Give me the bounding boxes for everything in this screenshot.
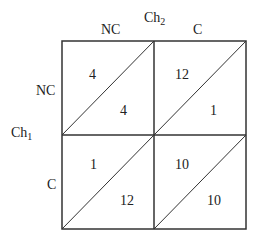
payoff-c-c-upper: 10: [175, 158, 189, 172]
cell-diagonal: [62, 135, 154, 229]
cell-diagonal: [154, 41, 246, 135]
row-label-nc: NC: [36, 84, 55, 98]
payoff-c-nc-upper: 1: [90, 158, 97, 172]
payoff-nc-nc-lower: 4: [120, 104, 127, 118]
row-label-c: C: [47, 178, 56, 192]
cell-diagonal: [154, 135, 246, 229]
cell-diagonal: [62, 41, 154, 135]
column-label-c: C: [193, 23, 202, 37]
player-2-label: Ch2: [144, 11, 165, 25]
payoff-c-nc-lower: 12: [120, 194, 134, 208]
payoff-nc-nc-upper: 4: [89, 68, 96, 82]
payoff-nc-c-upper: 12: [175, 68, 189, 82]
column-label-nc: NC: [101, 23, 120, 37]
player-1-label: Ch1: [11, 126, 32, 140]
payoff-c-c-lower: 10: [207, 194, 221, 208]
payoff-nc-c-lower: 1: [210, 104, 217, 118]
